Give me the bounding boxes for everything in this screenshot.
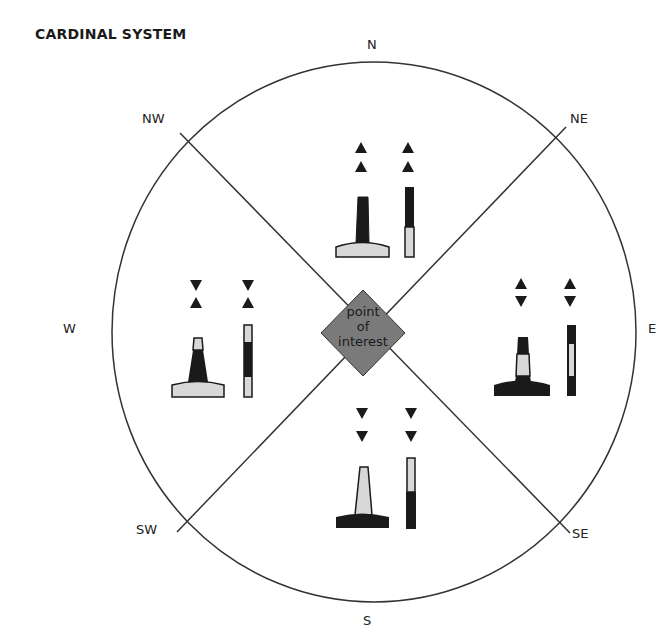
south-buoy-icon [336,467,389,528]
east-buoy-icon [494,337,550,396]
north-spar-icon [405,187,414,257]
direction-nw: NW [142,111,165,126]
direction-se: SE [572,526,588,541]
direction-sw: SW [136,522,157,537]
west-mark [172,280,254,397]
west-buoy-icon [172,338,224,397]
south-spar-icon [406,458,416,529]
north-mark [336,142,414,257]
west-topmark-icon [190,280,254,308]
east-spar-icon [567,325,576,396]
east-mark [494,278,576,396]
direction-ne: NE [570,111,588,126]
west-spar-icon [244,325,252,397]
north-buoy-icon [336,197,389,257]
point-of-interest-label: point of interest [323,304,403,349]
direction-n: N [367,37,377,52]
south-topmark-icon [356,408,417,442]
south-mark [336,408,417,529]
east-topmark-icon [515,278,576,307]
north-topmark-icon [355,142,414,172]
poi-line-3: interest [323,334,403,349]
poi-line-2: of [323,319,403,334]
direction-w: W [63,321,76,336]
poi-line-1: point [323,304,403,319]
direction-e: E [648,321,656,336]
direction-s: S [363,613,371,628]
